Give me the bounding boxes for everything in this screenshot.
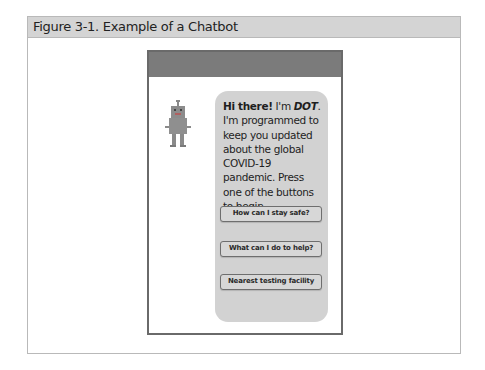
chat-bubble: Hi there! I'm DOT. I'm programmed to kee… bbox=[215, 91, 328, 322]
bot-name: DOT bbox=[294, 100, 318, 112]
testing-facility-button[interactable]: Nearest testing facility bbox=[220, 274, 322, 290]
figure-header: Figure 3-1. Example of a Chatbot bbox=[28, 17, 460, 38]
figure-title: Figure 3-1. Example of a Chatbot bbox=[33, 19, 238, 34]
message-text: I'm bbox=[273, 100, 294, 112]
greeting-text: Hi there! bbox=[223, 100, 273, 112]
stay-safe-button[interactable]: How can I stay safe? bbox=[220, 206, 322, 222]
robot-icon bbox=[165, 100, 191, 148]
chatbot-header-bar bbox=[149, 52, 341, 77]
help-button[interactable]: What can I do to help? bbox=[220, 241, 322, 257]
message-text: . I'm programmed to keep you updated abo… bbox=[223, 100, 321, 212]
chatbot-phone-frame: Hi there! I'm DOT. I'm programmed to kee… bbox=[147, 50, 343, 335]
chat-message: Hi there! I'm DOT. I'm programmed to kee… bbox=[223, 99, 323, 213]
